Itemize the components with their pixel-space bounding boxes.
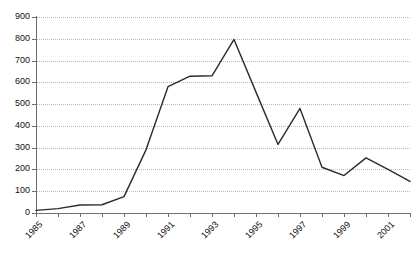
- line-chart-figure: 0100200300400500600700800900 19851987198…: [0, 0, 419, 255]
- series-1-line: [36, 39, 410, 210]
- series-line-layer: [0, 0, 419, 255]
